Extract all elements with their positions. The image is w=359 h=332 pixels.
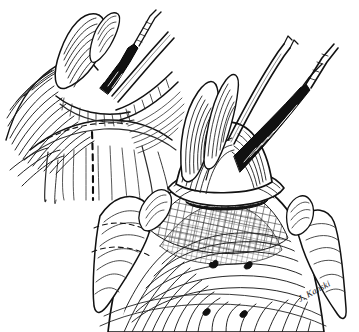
illustration-page: J. Kanski bbox=[0, 0, 359, 332]
surgical-illustration-plate: J. Kanski bbox=[0, 0, 359, 332]
